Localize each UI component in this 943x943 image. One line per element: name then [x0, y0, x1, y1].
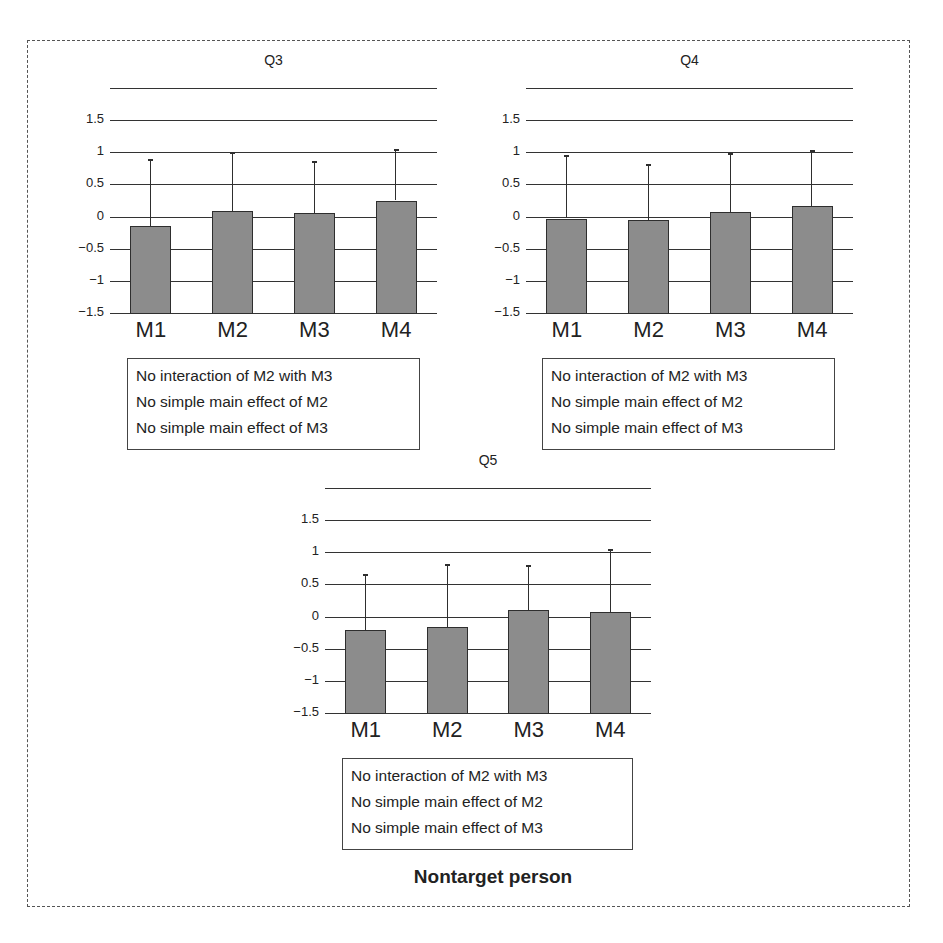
- note-line: No simple main effect of M3: [136, 415, 419, 441]
- notes-box: No interaction of M2 with M3 No simple m…: [542, 358, 835, 450]
- error-bar: [528, 565, 529, 611]
- error-bar-cap: [445, 564, 450, 566]
- bar-m2: [628, 220, 669, 314]
- error-bar: [395, 149, 396, 200]
- y-tick-label: 1.5: [279, 511, 319, 526]
- x-tick-label: M2: [633, 317, 664, 343]
- bar-m4: [376, 201, 417, 315]
- notes-box: No interaction of M2 with M3 No simple m…: [342, 758, 633, 850]
- plot-area: [526, 88, 853, 313]
- x-tick-label: M4: [381, 317, 412, 343]
- bar-m2: [427, 627, 468, 714]
- error-bar: [811, 150, 812, 205]
- gridline: [110, 184, 437, 185]
- y-tick-label: −0.5: [279, 639, 319, 654]
- error-bar: [232, 152, 233, 211]
- gridline: [325, 552, 651, 553]
- chart-title: Q3: [264, 52, 283, 68]
- gridline: [325, 520, 651, 521]
- error-bar-cap: [312, 161, 317, 163]
- error-bar-cap: [728, 153, 733, 155]
- note-line: No simple main effect of M3: [351, 815, 632, 841]
- gridline: [110, 152, 437, 153]
- bar-m4: [792, 206, 833, 314]
- note-line: No interaction of M2 with M3: [136, 363, 419, 389]
- gridline: [526, 120, 853, 121]
- error-bar-cap: [394, 149, 399, 151]
- x-tick-label: M3: [715, 317, 746, 343]
- notes-box: No interaction of M2 with M3 No simple m…: [127, 358, 420, 450]
- error-bar-cap: [363, 574, 368, 576]
- error-bar: [730, 153, 731, 212]
- y-tick-label: 0: [279, 607, 319, 622]
- error-bar: [365, 574, 366, 631]
- y-tick-label: −1: [279, 671, 319, 686]
- y-tick-label: 1.5: [480, 111, 520, 126]
- x-tick-label: M1: [136, 317, 167, 343]
- y-tick-label: −0.5: [64, 239, 104, 254]
- y-tick-label: 1: [64, 143, 104, 158]
- y-tick-label: 1: [480, 143, 520, 158]
- x-tick-label: M3: [513, 717, 544, 743]
- gridline: [526, 152, 853, 153]
- x-tick-label: M3: [299, 317, 330, 343]
- y-tick-label: 0.5: [64, 175, 104, 190]
- gridline: [325, 488, 651, 489]
- bar-m3: [294, 213, 335, 314]
- error-bar: [610, 549, 611, 612]
- x-tick-label: M1: [350, 717, 381, 743]
- note-line: No simple main effect of M2: [551, 389, 834, 415]
- gridline: [526, 88, 853, 89]
- error-bar-cap: [608, 549, 613, 551]
- error-bar-cap: [810, 150, 815, 152]
- y-tick-label: 0: [480, 207, 520, 222]
- note-line: No interaction of M2 with M3: [351, 763, 632, 789]
- chart-title: Q4: [680, 52, 699, 68]
- x-tick-label: M4: [797, 317, 828, 343]
- error-bar: [566, 155, 567, 219]
- note-line: No simple main effect of M3: [551, 415, 834, 441]
- x-tick-label: M2: [432, 717, 463, 743]
- y-tick-label: −1.5: [279, 704, 319, 719]
- plot-area: [325, 488, 651, 713]
- bar-m3: [508, 610, 549, 714]
- figure-caption: Nontarget person: [414, 866, 572, 888]
- plot-area: [110, 88, 437, 313]
- gridline: [325, 584, 651, 585]
- error-bar-cap: [148, 159, 153, 161]
- y-tick-label: −1.5: [480, 304, 520, 319]
- error-bar: [150, 159, 151, 226]
- chart-title: Q5: [479, 452, 498, 468]
- bar-m1: [546, 219, 587, 315]
- error-bar: [314, 161, 315, 213]
- bar-m4: [590, 612, 631, 714]
- note-line: No simple main effect of M2: [136, 389, 419, 415]
- error-bar-cap: [564, 155, 569, 157]
- bar-m3: [710, 212, 751, 314]
- bar-m1: [130, 226, 171, 314]
- bar-m2: [212, 211, 253, 314]
- note-line: No simple main effect of M2: [351, 789, 632, 815]
- error-bar-cap: [526, 565, 531, 567]
- error-bar: [447, 564, 448, 627]
- x-tick-label: M2: [217, 317, 248, 343]
- error-bar-cap: [230, 152, 235, 154]
- y-tick-label: −1.5: [64, 304, 104, 319]
- y-tick-label: −0.5: [480, 239, 520, 254]
- y-tick-label: 0: [64, 207, 104, 222]
- bar-m1: [345, 630, 386, 714]
- gridline: [526, 184, 853, 185]
- y-tick-label: −1: [64, 271, 104, 286]
- y-tick-label: 1: [279, 543, 319, 558]
- x-tick-label: M1: [552, 317, 583, 343]
- y-tick-label: 1.5: [64, 111, 104, 126]
- gridline: [110, 120, 437, 121]
- y-tick-label: 0.5: [279, 575, 319, 590]
- error-bar-cap: [646, 164, 651, 166]
- y-tick-label: 0.5: [480, 175, 520, 190]
- note-line: No interaction of M2 with M3: [551, 363, 834, 389]
- x-tick-label: M4: [595, 717, 626, 743]
- y-tick-label: −1: [480, 271, 520, 286]
- gridline: [110, 88, 437, 89]
- error-bar: [648, 164, 649, 221]
